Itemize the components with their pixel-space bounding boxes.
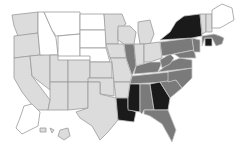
state-SD[interactable] — [80, 30, 106, 48]
state-WI[interactable] — [118, 26, 136, 44]
state-HI[interactable] — [40, 128, 70, 140]
us-choropleth-map — [0, 0, 246, 154]
state-AK[interactable] — [16, 104, 40, 134]
state-MS[interactable] — [128, 84, 140, 112]
state-UT[interactable] — [50, 55, 68, 82]
state-AZ[interactable] — [48, 82, 68, 110]
state-NM[interactable] — [68, 82, 88, 110]
state-IA[interactable] — [106, 44, 126, 58]
state-WA[interactable] — [12, 12, 38, 36]
state-OR[interactable] — [14, 33, 40, 58]
state-CO[interactable] — [68, 60, 90, 82]
state-FL[interactable] — [144, 110, 176, 142]
state-KS[interactable] — [90, 62, 112, 78]
state-CT[interactable] — [205, 38, 212, 46]
state-AR[interactable] — [114, 82, 130, 98]
state-regions — [12, 4, 234, 142]
state-WY[interactable] — [58, 34, 80, 56]
state-NH[interactable] — [206, 14, 212, 32]
state-MI[interactable] — [138, 20, 154, 44]
state-IN[interactable] — [134, 44, 144, 66]
state-NY[interactable] — [160, 14, 202, 40]
state-ME[interactable] — [212, 4, 234, 28]
state-OH[interactable] — [144, 42, 162, 62]
state-ND[interactable] — [80, 14, 106, 30]
